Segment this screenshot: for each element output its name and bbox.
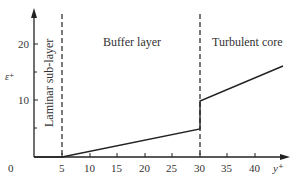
x-tick-label: 35: [221, 162, 233, 174]
x-tick-label: 0: [8, 162, 14, 174]
buffer-layer-label: Buffer layer: [103, 35, 161, 49]
y-tick-label: 10: [18, 94, 30, 106]
profile-line: [34, 66, 283, 157]
turbulent-core-label: Turbulent core: [212, 35, 283, 49]
x-axis-arrow-icon: [280, 154, 290, 160]
x-axis-label: y⁺: [272, 162, 284, 174]
x-tick-label: 30: [194, 162, 206, 174]
laminar-sublayer-label: Laminar sub-layer: [42, 39, 56, 127]
x-tick-label: 10: [84, 162, 96, 174]
x-tick-label: 15: [111, 162, 123, 174]
y-axis-arrow-icon: [31, 8, 37, 18]
x-tick-label: 20: [139, 162, 151, 174]
y-axis-label: ε⁺: [5, 71, 14, 82]
y-tick-label: 20: [18, 38, 30, 50]
chart: 0 5 10 15 20 25 30 35 40 y⁺ 20 10 ε⁺ Lam…: [0, 0, 297, 179]
x-tick-label: 40: [249, 162, 261, 174]
x-tick-label: 25: [166, 162, 178, 174]
x-tick-label: 5: [59, 162, 65, 174]
